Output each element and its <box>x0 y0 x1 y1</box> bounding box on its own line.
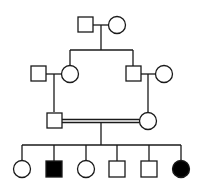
individual-II-2-female <box>62 66 79 83</box>
pedigree-chart <box>0 0 202 194</box>
individual-II-1-male <box>31 66 46 81</box>
individual-IV-3-female <box>78 161 95 178</box>
individual-II-3-male <box>126 66 141 81</box>
individual-I-2-female <box>109 17 126 34</box>
individual-IV-2-male-affected <box>46 161 62 177</box>
individual-II-4-female <box>156 66 173 83</box>
individual-IV-6-female-affected <box>173 161 190 178</box>
individual-III-1-male <box>47 113 62 128</box>
individual-IV-1-female <box>14 161 31 178</box>
individual-III-2-female <box>140 113 157 130</box>
individual-I-1-male <box>78 17 93 32</box>
individual-IV-5-male <box>141 161 157 177</box>
individual-IV-4-male <box>109 161 125 177</box>
